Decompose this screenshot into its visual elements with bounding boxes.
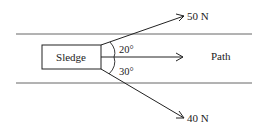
- angle-arc-20: [110, 42, 115, 57]
- force-label-50n: 50 N: [187, 10, 209, 22]
- path-label: Path: [211, 50, 231, 62]
- force-arrow-40n: [101, 69, 184, 118]
- angle-label-20: 20°: [119, 44, 134, 55]
- angle-arc-30: [109, 57, 115, 74]
- sledge-label: Sledge: [56, 51, 86, 63]
- force-arrow-50n: [101, 16, 184, 45]
- angle-label-30: 30°: [119, 66, 134, 77]
- sledge-force-diagram: Sledge 50 N Path 40 N 20° 30°: [0, 0, 260, 130]
- force-label-40n: 40 N: [187, 112, 209, 124]
